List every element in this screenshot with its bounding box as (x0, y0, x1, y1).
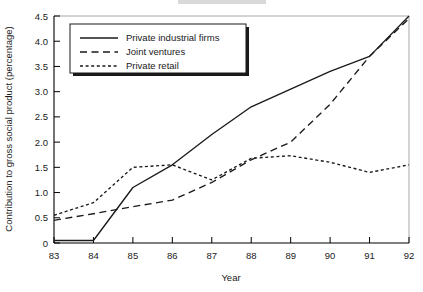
x-tick-label: 88 (246, 250, 257, 261)
y-tick-label: 2.0 (35, 137, 48, 148)
y-tick-label: 1.5 (35, 162, 48, 173)
y-tick-label: 4.0 (35, 36, 48, 47)
legend-label: Joint ventures (126, 46, 185, 57)
legend-label: Private retail (126, 60, 179, 71)
legend-label: Private industrial firms (126, 32, 220, 43)
top-artifact (178, 0, 266, 4)
y-tick-label: 3.0 (35, 86, 48, 97)
x-tick-label: 85 (128, 250, 139, 261)
chart-canvas: 00.51.01.52.02.53.03.54.04.5 83848586878… (0, 0, 423, 292)
y-tick-label: 1.0 (35, 187, 48, 198)
x-tick-label: 90 (325, 250, 336, 261)
x-tick-label: 84 (88, 250, 99, 261)
y-axis-title: Contribution to gross social product (pe… (3, 26, 14, 231)
series-line-dotted (54, 156, 409, 216)
y-axis-ticks: 00.51.01.52.02.53.03.54.04.5 (35, 11, 60, 249)
x-tick-label: 87 (206, 250, 217, 261)
y-tick-label: 2.5 (35, 111, 48, 122)
chart-legend: Private industrial firmsJoint venturesPr… (70, 24, 249, 76)
y-tick-label: 0.5 (35, 212, 48, 223)
x-tick-label: 92 (404, 250, 415, 261)
y-tick-label: 3.5 (35, 61, 48, 72)
y-tick-label: 4.5 (35, 11, 48, 22)
line-chart-figure: 00.51.01.52.02.53.03.54.04.5 83848586878… (0, 0, 423, 292)
x-axis-ticks: 83848586878889909192 (49, 237, 415, 261)
x-axis-title: Year (221, 272, 240, 283)
x-tick-label: 89 (285, 250, 296, 261)
x-tick-label: 91 (364, 250, 375, 261)
y-tick-label: 0 (43, 238, 48, 249)
x-tick-label: 86 (167, 250, 178, 261)
x-tick-label: 83 (49, 250, 60, 261)
